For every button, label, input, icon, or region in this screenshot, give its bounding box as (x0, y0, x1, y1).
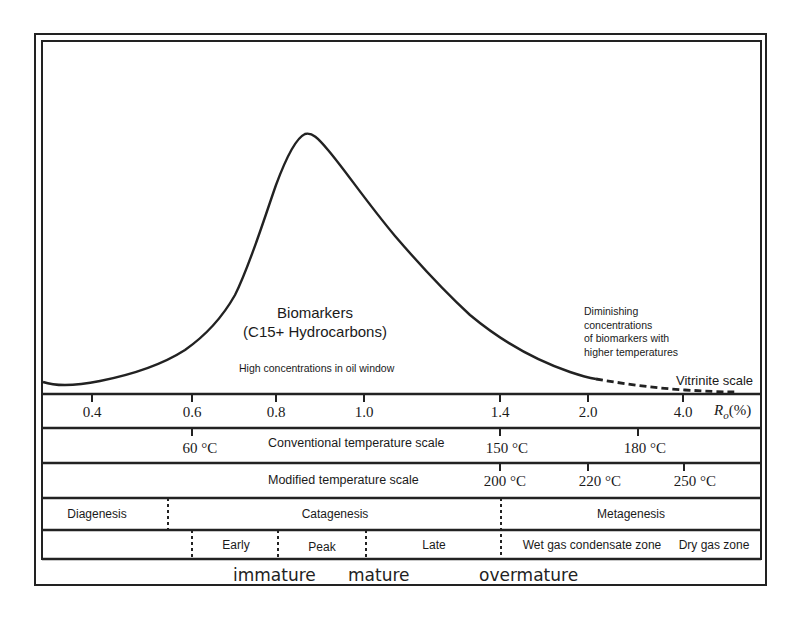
oil-window-note: High concentrations in oil window (239, 362, 394, 374)
biomarker-curve (43, 134, 596, 385)
modified-temp-tick-label: 250 °C (674, 473, 716, 490)
maturity-immature: immature (233, 565, 316, 585)
modified-temperature-title: Modified temperature scale (268, 473, 419, 487)
maturity-mature: mature (348, 565, 410, 585)
maturity-overmature: overmature (479, 565, 578, 585)
conventional-temp-tick-label: 150 °C (486, 440, 528, 457)
ro-tick-label: 1.4 (491, 404, 510, 421)
substage-peak: Peak (308, 540, 335, 554)
modified-temp-tick-label: 220 °C (579, 473, 621, 490)
ro-tick-label: 0.6 (183, 404, 202, 421)
ro-tick-label: 0.8 (267, 404, 286, 421)
conventional-temperature-title: Conventional temperature scale (268, 436, 445, 450)
vitrinite-scale-label: Vitrinite scale (676, 373, 753, 388)
ro-tick-label: 2.0 (579, 404, 598, 421)
modified-temp-tick-label: 200 °C (484, 473, 526, 490)
stage-diagenesis: Diagenesis (67, 507, 126, 521)
substage-wet-gas-condensate: Wet gas condensate zone (523, 538, 662, 552)
stage-metagenesis: Metagenesis (597, 507, 665, 521)
ro-tick-label: 1.0 (355, 404, 374, 421)
stage-catagenesis: Catagenesis (302, 507, 369, 521)
substage-early: Early (222, 538, 249, 552)
ro-tick-label: 0.4 (83, 404, 102, 421)
substage-dry-gas: Dry gas zone (679, 538, 750, 552)
ro-tick-label: 4.0 (674, 404, 693, 421)
curve-label-title: Biomarkers (0, 303, 630, 322)
conventional-temp-tick-label: 180 °C (624, 440, 666, 457)
curve-label-subtitle: (C15+ Hydrocarbons) (0, 322, 630, 341)
ro-unit-label: Ro(%) (714, 402, 751, 421)
substage-late: Late (422, 538, 445, 552)
diminishing-note: Diminishing concentrations of biomarkers… (584, 305, 678, 359)
conventional-temp-tick-label: 60 °C (183, 440, 218, 457)
